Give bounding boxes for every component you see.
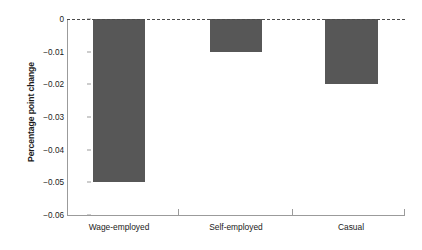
bar-chart-figure: Percentage point change 0 −0.01 −0.02 −0…	[0, 0, 422, 250]
y-tick-label-0: 0	[28, 15, 64, 24]
y-tick-mark-4	[87, 149, 91, 150]
x-axis-category-separator-1	[178, 209, 179, 216]
y-tick-label-6: −0.06	[28, 211, 64, 220]
x-tick-label-casual: Casual	[311, 222, 391, 232]
y-axis-line	[67, 19, 68, 216]
bar-casual	[325, 19, 378, 84]
x-tick-label-wage-employed: Wage-employed	[79, 222, 159, 232]
y-axis-ticks: 0 −0.01 −0.02 −0.03 −0.04 −0.05 −0.06	[24, 0, 64, 250]
y-tick-label-2: −0.02	[28, 80, 64, 89]
x-tick-label-self-employed: Self-employed	[196, 222, 276, 232]
x-axis-line	[67, 215, 405, 216]
y-tick-label-4: −0.04	[28, 145, 64, 154]
zero-reference-line	[67, 19, 405, 20]
x-axis-category-separator-2	[292, 209, 293, 216]
y-tick-label-5: −0.05	[28, 178, 64, 187]
bar-wage-employed	[93, 19, 145, 182]
bar-self-employed	[210, 19, 262, 52]
y-tick-label-1: −0.01	[28, 47, 64, 56]
y-tick-mark-5	[87, 182, 91, 183]
x-axis-end-tick	[404, 209, 405, 216]
y-tick-mark-3	[87, 117, 91, 118]
y-tick-label-3: −0.03	[28, 113, 64, 122]
y-tick-mark-2	[87, 84, 91, 85]
y-tick-mark-1	[87, 51, 91, 52]
x-axis-start-tick	[67, 209, 68, 216]
